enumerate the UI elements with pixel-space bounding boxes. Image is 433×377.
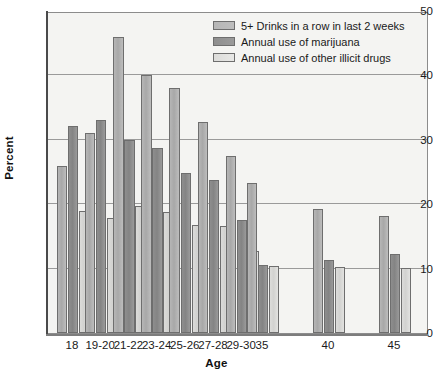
y-axis-line — [46, 11, 48, 335]
y-axis-title: Percent — [3, 113, 15, 203]
x-axis-tick-label: 45 — [364, 339, 424, 351]
legend-swatch-icon — [213, 21, 235, 30]
bar — [313, 209, 324, 333]
legend-swatch-icon — [213, 53, 235, 62]
x-axis-tick-label: 35 — [232, 339, 292, 351]
bar — [247, 183, 258, 333]
bar — [401, 268, 412, 333]
bar — [68, 126, 79, 333]
x-axis-tick-label: 40 — [298, 339, 358, 351]
bar — [335, 267, 346, 333]
legend-item: 5+ Drinks in a row in last 2 weeks — [213, 18, 425, 33]
bar — [124, 140, 135, 333]
chart-legend: 5+ Drinks in a row in last 2 weeksAnnual… — [213, 18, 425, 66]
bar — [141, 75, 152, 333]
legend-label: Annual use of other illicit drugs — [241, 52, 391, 64]
bar — [169, 88, 180, 333]
bar — [269, 266, 280, 333]
x-axis-line — [46, 334, 428, 336]
legend-item: Annual use of other illicit drugs — [213, 50, 425, 65]
legend-label: 5+ Drinks in a row in last 2 weeks — [241, 20, 405, 32]
bar — [198, 122, 209, 333]
bar — [57, 166, 68, 333]
y-axis-tick-label: 40 — [391, 70, 433, 81]
bar — [113, 37, 124, 333]
y-axis-tick-label: 50 — [391, 6, 433, 17]
bar — [258, 265, 269, 333]
y-axis-tick-label: 20 — [391, 199, 433, 210]
bar — [181, 173, 192, 333]
bar — [96, 120, 107, 333]
gridline — [48, 74, 427, 75]
y-axis-tick-label: 30 — [391, 135, 433, 146]
legend-item: Annual use of marijuana — [213, 34, 425, 49]
legend-swatch-icon — [213, 37, 235, 46]
bar — [226, 156, 237, 333]
bar-chart: 01020304050 Percent 1819-2021-2223-2425-… — [0, 0, 433, 377]
legend-label: Annual use of marijuana — [241, 36, 360, 48]
bar — [324, 260, 335, 333]
bar — [85, 133, 96, 333]
bar — [379, 216, 390, 333]
x-axis-title: Age — [0, 357, 433, 369]
bar — [209, 180, 220, 333]
bar — [152, 148, 163, 333]
y-axis-tick-label: 10 — [391, 264, 433, 275]
